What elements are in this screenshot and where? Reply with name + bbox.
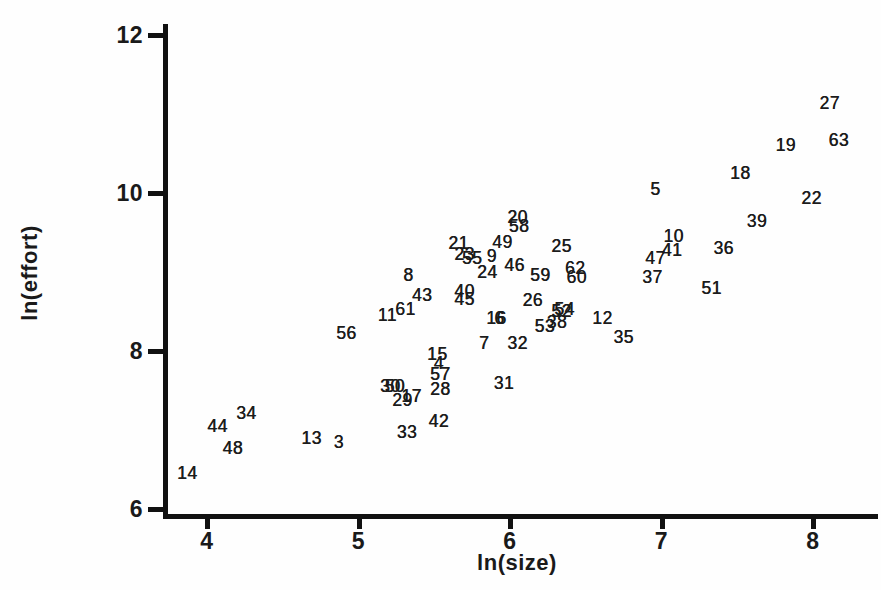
data-point-label-58: 58: [509, 216, 529, 237]
data-point-label-44: 44: [207, 416, 227, 437]
x-tick-mark: [357, 515, 362, 529]
data-point-label-25: 25: [551, 235, 571, 256]
data-point-label-5: 5: [650, 179, 660, 200]
data-point-label-22: 22: [801, 187, 821, 208]
data-point-label-24: 24: [477, 262, 497, 283]
y-tick-mark: [148, 191, 164, 196]
data-point-label-60: 60: [566, 266, 586, 287]
x-tick-mark: [508, 515, 513, 529]
data-point-label-36: 36: [713, 238, 733, 259]
data-point-label-18: 18: [730, 163, 750, 184]
x-tick-mark: [811, 515, 816, 529]
x-axis-title: ln(size): [477, 550, 557, 576]
y-tick-label: 6: [91, 496, 143, 523]
y-axis-line: [163, 24, 168, 519]
y-axis-title: ln(effort): [17, 225, 43, 320]
data-point-label-31: 31: [494, 373, 514, 394]
data-point-label-19: 19: [775, 134, 795, 155]
x-tick-label: 5: [352, 528, 365, 555]
data-point-label-43: 43: [412, 284, 432, 305]
data-point-label-26: 26: [522, 289, 542, 310]
data-point-label-42: 42: [429, 411, 449, 432]
y-tick-label: 8: [91, 338, 143, 365]
data-point-label-56: 56: [336, 322, 356, 343]
x-tick-mark: [660, 515, 665, 529]
data-point-label-33: 33: [397, 422, 417, 443]
y-tick-label: 10: [91, 180, 143, 207]
data-point-label-12: 12: [592, 307, 612, 328]
data-point-label-32: 32: [507, 333, 527, 354]
data-point-label-8: 8: [403, 265, 413, 286]
data-point-label-39: 39: [747, 210, 767, 231]
x-axis-line: [163, 514, 878, 519]
data-point-label-13: 13: [301, 427, 321, 448]
data-point-label-51: 51: [701, 277, 721, 298]
x-tick-mark: [205, 515, 210, 529]
data-point-label-35: 35: [613, 326, 633, 347]
data-point-label-34: 34: [236, 402, 256, 423]
x-tick-label: 4: [200, 528, 213, 555]
y-tick-mark: [148, 349, 164, 354]
data-point-label-53: 53: [535, 315, 555, 336]
data-point-label-27: 27: [819, 92, 839, 113]
y-tick-mark: [148, 507, 164, 512]
data-point-label-59: 59: [530, 265, 550, 286]
y-tick-label: 12: [91, 22, 143, 49]
scatter-plot-figure: 681012 45678 144434481335611618433050291…: [0, 0, 881, 590]
data-point-label-7: 7: [479, 333, 489, 354]
data-point-label-3: 3: [334, 431, 344, 452]
data-point-label-37: 37: [642, 266, 662, 287]
data-point-label-47: 47: [645, 247, 665, 268]
y-tick-mark: [148, 33, 164, 38]
data-point-label-6: 6: [494, 307, 504, 328]
data-point-label-63: 63: [829, 130, 849, 151]
data-point-label-48: 48: [223, 438, 243, 459]
data-point-label-46: 46: [504, 254, 524, 275]
data-point-label-17: 17: [401, 386, 421, 407]
data-point-label-45: 45: [454, 288, 474, 309]
x-tick-label: 8: [806, 528, 819, 555]
data-point-label-28: 28: [430, 378, 450, 399]
data-point-label-11: 11: [378, 304, 397, 325]
data-point-label-14: 14: [177, 462, 197, 483]
x-tick-label: 7: [655, 528, 668, 555]
